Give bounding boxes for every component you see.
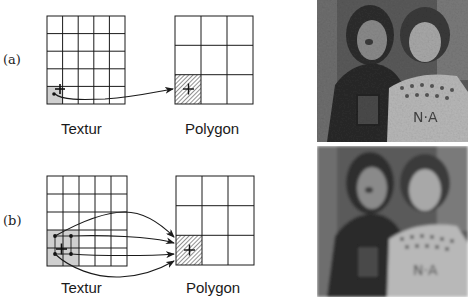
texture-grid-a [47, 16, 125, 104]
svg-text:N·A: N·A [413, 262, 438, 278]
svg-text:N·A: N·A [413, 109, 438, 125]
polygon-grid-b [176, 176, 254, 265]
photo-filtered: N·A [317, 146, 468, 297]
mapping-arrow-a [55, 89, 173, 99]
photo-nearest: N·A [317, 0, 468, 142]
mapping-diagram [0, 0, 310, 297]
polygon-grid-a [175, 16, 253, 104]
